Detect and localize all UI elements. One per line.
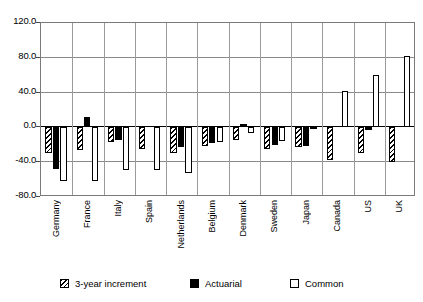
bar bbox=[84, 117, 90, 127]
bar bbox=[170, 127, 176, 153]
bar bbox=[217, 127, 223, 142]
bar bbox=[185, 127, 191, 172]
bar bbox=[77, 127, 83, 150]
x-axis-tick-label: Spain bbox=[144, 200, 154, 223]
legend-label: Common bbox=[305, 278, 344, 289]
bar bbox=[53, 127, 59, 169]
y-axis-tick-label: -80.0 bbox=[0, 190, 36, 200]
x-axis-tick-label: Denmark bbox=[238, 200, 248, 237]
bar bbox=[303, 127, 309, 145]
bar bbox=[202, 127, 208, 145]
bar-group bbox=[197, 23, 228, 195]
bar bbox=[279, 127, 285, 141]
bar bbox=[45, 127, 51, 153]
legend-item: Actuarial bbox=[190, 278, 242, 289]
bar bbox=[240, 124, 246, 127]
plot-area bbox=[40, 22, 415, 196]
bar bbox=[60, 127, 66, 181]
legend-swatch-hatched-icon bbox=[60, 279, 69, 288]
x-axis-tick-label: Germany bbox=[51, 200, 61, 237]
y-axis-tick-label: 80.0 bbox=[0, 51, 36, 61]
y-axis-tick-label: -40.0 bbox=[0, 155, 36, 165]
x-axis-tick-label: France bbox=[82, 200, 92, 228]
legend-swatch-white-icon bbox=[290, 279, 299, 288]
legend-item: Common bbox=[290, 278, 344, 289]
bar bbox=[373, 75, 379, 127]
x-axis-tick-label: UK bbox=[394, 200, 404, 213]
x-axis-tick-label: US bbox=[363, 200, 373, 213]
bar bbox=[272, 127, 278, 144]
bar-group bbox=[41, 23, 72, 195]
bar bbox=[358, 127, 364, 153]
legend-label: Actuarial bbox=[205, 278, 242, 289]
bar bbox=[139, 127, 145, 149]
bar-group bbox=[72, 23, 103, 195]
legend-swatch-black-icon bbox=[190, 279, 199, 288]
bar bbox=[123, 127, 129, 170]
bar bbox=[389, 127, 395, 162]
x-axis-tick-label: Netherlands bbox=[176, 200, 186, 249]
bar-group bbox=[385, 23, 416, 195]
x-axis-tick-label: Canada bbox=[332, 200, 342, 232]
bar bbox=[248, 127, 254, 132]
bar bbox=[310, 127, 316, 129]
bar bbox=[92, 127, 98, 181]
bar bbox=[404, 56, 410, 127]
bar bbox=[209, 127, 215, 143]
bar-group bbox=[229, 23, 260, 195]
legend-label: 3-year increment bbox=[75, 278, 146, 289]
chart-legend: 3-year incrementActuarialCommon bbox=[40, 272, 415, 294]
bar bbox=[295, 127, 301, 146]
bar-group bbox=[291, 23, 322, 195]
legend-item: 3-year increment bbox=[60, 278, 146, 289]
bar-group bbox=[166, 23, 197, 195]
bar-group bbox=[322, 23, 353, 195]
bar-group bbox=[104, 23, 135, 195]
y-axis-tick-mark bbox=[36, 196, 40, 197]
bar bbox=[154, 127, 160, 170]
x-axis-tick-label: Sweden bbox=[269, 200, 279, 233]
x-axis-tick-label: Belgium bbox=[207, 200, 217, 233]
y-axis-tick-label: 40.0 bbox=[0, 86, 36, 96]
bar bbox=[342, 91, 348, 128]
bar-group bbox=[135, 23, 166, 195]
bar bbox=[115, 127, 121, 139]
bar bbox=[178, 127, 184, 147]
y-axis-tick-label: 120.0 bbox=[0, 16, 36, 26]
bar bbox=[264, 127, 270, 149]
x-axis-tick-label: Italy bbox=[113, 200, 123, 217]
y-axis-tick-label: 0.0 bbox=[0, 120, 36, 130]
bar bbox=[108, 127, 114, 142]
bar bbox=[365, 127, 371, 130]
chart-container: 120.080.040.00.0-40.0-80.0 GermanyFrance… bbox=[0, 0, 423, 302]
bar-group bbox=[354, 23, 385, 195]
bar bbox=[327, 127, 333, 160]
bar-group bbox=[260, 23, 291, 195]
bar bbox=[233, 127, 239, 139]
x-axis-tick-label: Japan bbox=[301, 200, 311, 225]
